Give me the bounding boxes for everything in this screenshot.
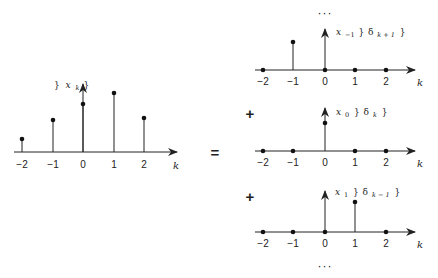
tick-label: 1	[352, 238, 358, 249]
ellipsis-top: ···	[318, 6, 333, 20]
axis-label: k	[417, 158, 423, 169]
decomposition-figure: −2 −1 0 1 2 k } x k } = ··· −2 −1 0 1 2 …	[0, 0, 438, 278]
left-stem-plot: −2 −1 0 1 2 k } x k }	[14, 80, 179, 171]
tick-label: −2	[16, 159, 28, 170]
term-label: x 0 } δ k }	[336, 107, 387, 119]
tick-label: −1	[287, 76, 299, 87]
sample-point	[291, 40, 296, 45]
tick-label: −1	[287, 157, 299, 168]
sample-point	[353, 200, 358, 205]
tick-label: 0	[80, 159, 86, 170]
tick-label: −2	[257, 238, 269, 249]
tick-label: 0	[322, 238, 328, 249]
tick-label: 0	[322, 157, 328, 168]
term-label: x −1 } δ k + 1 }	[336, 27, 406, 39]
sample-point	[112, 91, 117, 96]
impulse-plot-k-minus-1: −2 −1 0 1 2 k x 1 } δ k − 1 }	[255, 187, 423, 250]
term-label: x 1 } δ k − 1 }	[335, 187, 400, 199]
plus-sign: +	[246, 188, 255, 205]
tick-label: 2	[383, 238, 389, 249]
equals-sign: =	[211, 144, 220, 161]
sample-point	[20, 137, 25, 142]
tick-label: −2	[257, 157, 269, 168]
impulse-plot-k: −2 −1 0 1 2 k x 0 } δ k }	[255, 107, 423, 169]
tick-label: 1	[352, 76, 358, 87]
tick-label: 0	[322, 76, 328, 87]
tick-label: 2	[383, 157, 389, 168]
tick-label: −1	[287, 238, 299, 249]
ellipsis-bottom: ···	[318, 259, 333, 273]
axis-label: k	[417, 77, 423, 88]
tick-label: 2	[141, 159, 147, 170]
sequence-label: } x k }	[54, 80, 89, 92]
tick-label: 1	[352, 157, 358, 168]
plus-sign: +	[246, 105, 255, 122]
tick-label: −1	[47, 159, 59, 170]
tick-label: 2	[383, 76, 389, 87]
tick-label: 1	[111, 159, 117, 170]
sample-point	[323, 121, 328, 126]
axis-label: k	[173, 160, 179, 171]
axis-label: k	[417, 239, 423, 250]
impulse-plot-k-plus-1: −2 −1 0 1 2 k x −1 } δ k + 1 }	[255, 27, 423, 88]
sample-point	[142, 116, 147, 121]
sample-point	[51, 118, 56, 123]
tick-label: −2	[257, 76, 269, 87]
sample-point	[81, 102, 86, 107]
